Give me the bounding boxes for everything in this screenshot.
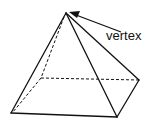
vertex-label: vertex [106, 28, 142, 43]
edge-apex-front-left [11, 13, 66, 113]
edge-apex-back-left [41, 17, 64, 78]
edge-right-base [117, 80, 139, 117]
pyramid-diagram: vertex [0, 0, 155, 124]
edge-front-base [11, 113, 117, 117]
edge-back-base [41, 78, 139, 80]
edge-apex-back-right [66, 13, 139, 80]
